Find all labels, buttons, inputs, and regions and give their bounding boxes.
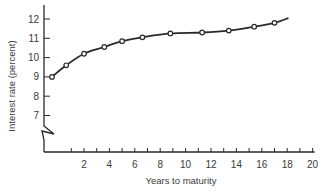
data-point-marker xyxy=(102,45,107,50)
x-tick-label: 10 xyxy=(180,159,192,170)
data-point-marker xyxy=(50,75,55,80)
data-point-marker xyxy=(168,31,173,36)
data-point-marker xyxy=(120,39,125,44)
data-point-marker xyxy=(252,24,257,29)
data-point-marker xyxy=(140,35,145,40)
x-tick-label: 18 xyxy=(282,159,294,170)
y-tick-label: 8 xyxy=(33,91,39,102)
x-axis: 2468101214161820 xyxy=(44,148,319,170)
x-tick-label: 4 xyxy=(107,159,113,170)
data-point-marker xyxy=(200,30,205,35)
x-tick-label: 2 xyxy=(81,159,87,170)
yield-curve-chart: 789101112 2468101214161820 Interest rate… xyxy=(0,0,324,192)
y-tick-label: 7 xyxy=(33,110,39,121)
data-point-marker xyxy=(82,51,87,56)
y-tick-label: 10 xyxy=(28,52,40,63)
y-tick-label: 12 xyxy=(28,14,40,25)
series-yield-curve xyxy=(50,18,289,79)
data-point-marker xyxy=(272,21,277,26)
data-point-marker xyxy=(226,28,231,33)
y-tick-label: 9 xyxy=(33,71,39,82)
y-tick-label: 11 xyxy=(29,33,40,44)
x-tick-label: 6 xyxy=(132,159,138,170)
x-tick-label: 20 xyxy=(307,159,319,170)
data-point-marker xyxy=(64,63,69,68)
x-tick-label: 16 xyxy=(256,159,268,170)
x-tick-label: 12 xyxy=(205,159,217,170)
x-tick-label: 14 xyxy=(231,159,243,170)
x-axis-label: Years to maturity xyxy=(146,175,217,186)
y-axis-label: Interest rate (percent) xyxy=(6,40,17,131)
x-tick-label: 8 xyxy=(157,159,163,170)
